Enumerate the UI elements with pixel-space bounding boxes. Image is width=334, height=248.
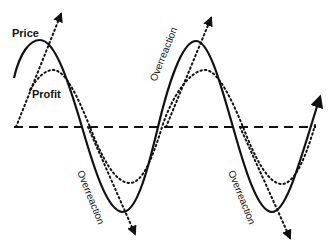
profit-label: Profit bbox=[32, 88, 61, 100]
price-profit-overreaction-diagram: Price Profit Overreaction Overreaction O… bbox=[0, 0, 334, 248]
price-label: Price bbox=[12, 27, 39, 39]
overreaction-label-down-1: Overreaction bbox=[75, 169, 107, 226]
overreaction-label-down-2: Overreaction bbox=[226, 169, 258, 226]
overreaction-label-up: Overreaction bbox=[148, 26, 180, 83]
